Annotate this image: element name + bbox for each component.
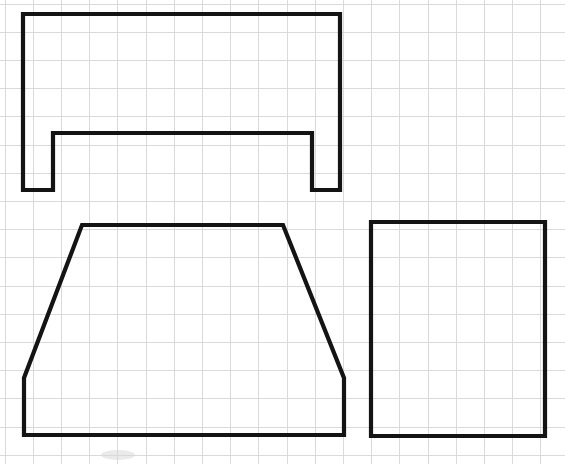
drawing-sheet	[0, 0, 565, 464]
scan-artifacts-group	[0, 0, 565, 464]
pencil-smudge-artifact	[101, 450, 135, 460]
